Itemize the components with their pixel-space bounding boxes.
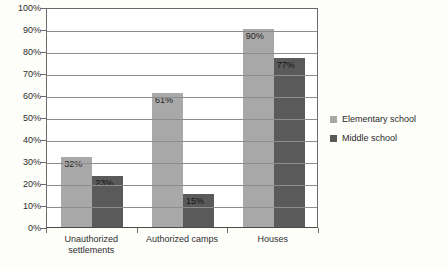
- legend-item[interactable]: Middle school: [330, 133, 444, 143]
- legend-item[interactable]: Elementary school: [330, 114, 444, 124]
- plot-area: 32%23%61%15%90%77%: [46, 8, 318, 228]
- bar: 32%: [61, 157, 92, 227]
- y-tick-label: 70%: [23, 70, 41, 79]
- bar-chart: 0%10%20%30%40%50%60%70%80%90%100% 32%23%…: [0, 0, 448, 269]
- x-tick-mark: [318, 228, 319, 233]
- y-tick-mark: [40, 206, 46, 207]
- y-tick-mark: [40, 74, 46, 75]
- y-tick-mark: [40, 8, 46, 9]
- legend-swatch-icon: [330, 116, 337, 123]
- legend-swatch-icon: [330, 135, 337, 142]
- x-axis: Unauthorized settlementsAuthorized camps…: [46, 234, 318, 268]
- gridline: [47, 53, 317, 54]
- y-tick-label: 10%: [23, 202, 41, 211]
- legend-label: Elementary school: [342, 114, 416, 124]
- x-tick-label: Authorized camps: [137, 234, 227, 245]
- x-tick-mark: [227, 228, 228, 233]
- y-tick-mark: [40, 30, 46, 31]
- bar: 90%: [243, 29, 274, 227]
- y-tick-label: 50%: [23, 114, 41, 123]
- y-tick-label: 30%: [23, 158, 41, 167]
- y-tick-label: 40%: [23, 136, 41, 145]
- x-tick-mark: [137, 228, 138, 233]
- gridline: [47, 141, 317, 142]
- bar-value-label: 77%: [277, 60, 295, 70]
- y-tick-mark: [40, 184, 46, 185]
- bar-value-label: 23%: [95, 178, 113, 188]
- y-tick-mark: [40, 96, 46, 97]
- x-tick-label: Houses: [228, 234, 318, 245]
- bar-value-label: 90%: [246, 31, 264, 41]
- bar: 15%: [183, 194, 214, 227]
- legend-label: Middle school: [342, 133, 397, 143]
- x-tick-mark: [46, 228, 47, 233]
- y-axis: 0%10%20%30%40%50%60%70%80%90%100%: [0, 0, 44, 229]
- bar: 77%: [274, 58, 305, 227]
- y-tick-mark: [40, 140, 46, 141]
- y-tick-label: 20%: [23, 180, 41, 189]
- gridline: [47, 119, 317, 120]
- bar-value-label: 15%: [186, 196, 204, 206]
- gridline: [47, 31, 317, 32]
- y-tick-label: 90%: [23, 26, 41, 35]
- gridline: [47, 185, 317, 186]
- y-tick-mark: [40, 162, 46, 163]
- y-tick-label: 100%: [18, 4, 41, 13]
- x-tick-label: Unauthorized settlements: [46, 234, 136, 256]
- legend: Elementary schoolMiddle school: [330, 114, 444, 152]
- gridline: [47, 163, 317, 164]
- gridline: [47, 97, 317, 98]
- y-tick-mark: [40, 52, 46, 53]
- gridline: [47, 75, 317, 76]
- bar-value-label: 32%: [64, 159, 82, 169]
- y-tick-label: 60%: [23, 92, 41, 101]
- y-tick-mark: [40, 118, 46, 119]
- y-tick-label: 80%: [23, 48, 41, 57]
- gridline: [47, 207, 317, 208]
